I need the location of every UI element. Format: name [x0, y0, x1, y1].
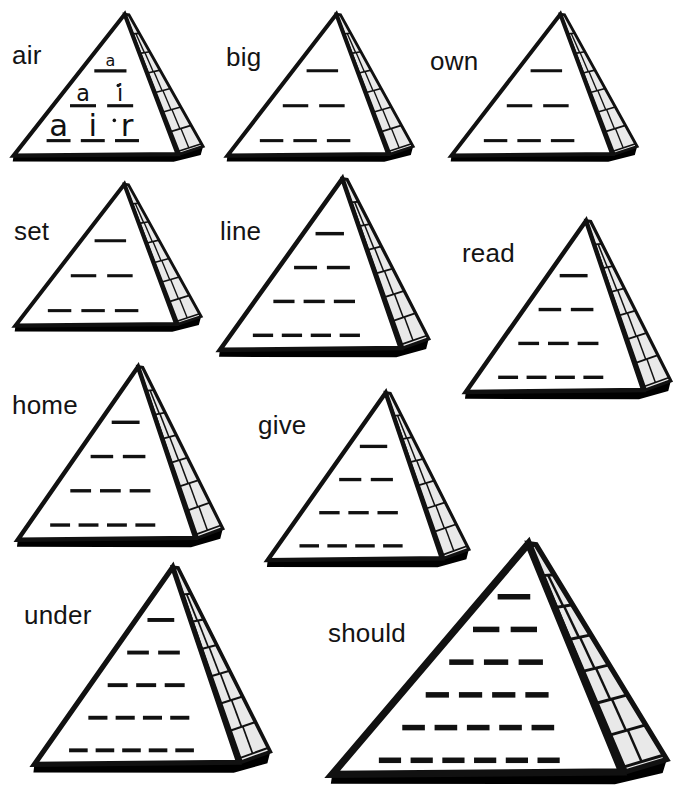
pyramid-shape-line — [216, 176, 432, 360]
pyramid-line[interactable] — [216, 176, 432, 360]
pyramid-read[interactable] — [462, 218, 674, 402]
pyramid-shape-should — [326, 540, 672, 788]
answer-letter: a — [105, 51, 115, 70]
pyramid-shape-air: aaiair — [10, 12, 206, 164]
pyramid-big[interactable] — [224, 12, 416, 164]
pyramid-shape-home — [14, 364, 226, 550]
answer-letter: i — [117, 80, 123, 106]
pyramid-front-face — [15, 184, 176, 325]
answer-letter: i — [88, 107, 97, 143]
answer-letter: a — [49, 107, 68, 143]
pyramid-front-face — [466, 221, 643, 392]
pyramid-shape-big — [224, 12, 416, 164]
pyramid-front-face — [332, 544, 622, 775]
pyramid-should[interactable] — [326, 540, 672, 788]
answer-letter: a — [76, 80, 90, 106]
answer-letter: r — [121, 107, 134, 143]
pyramid-air[interactable]: aaiair — [10, 12, 206, 164]
pyramid-own[interactable] — [448, 12, 640, 164]
worksheet-canvas: airaaiairbigownsetlinereadhomegiveunders… — [0, 0, 677, 790]
pyramid-home[interactable] — [14, 364, 226, 550]
pyramid-under[interactable] — [30, 564, 274, 776]
pyramid-row-3[interactable]: air — [47, 107, 139, 143]
pyramid-front-face — [34, 567, 238, 764]
pyramid-front-face — [18, 367, 195, 540]
pencil-dot — [113, 119, 117, 123]
pyramid-front-face — [268, 393, 442, 560]
pyramid-shape-set — [12, 182, 204, 334]
pyramid-shape-under — [30, 564, 274, 776]
pyramid-shape-own — [448, 12, 640, 164]
pyramid-front-face — [451, 14, 612, 155]
pyramid-set[interactable] — [12, 182, 204, 334]
pyramid-shape-read — [462, 218, 674, 402]
pyramid-front-face — [220, 179, 401, 350]
pyramid-front-face — [227, 14, 388, 155]
